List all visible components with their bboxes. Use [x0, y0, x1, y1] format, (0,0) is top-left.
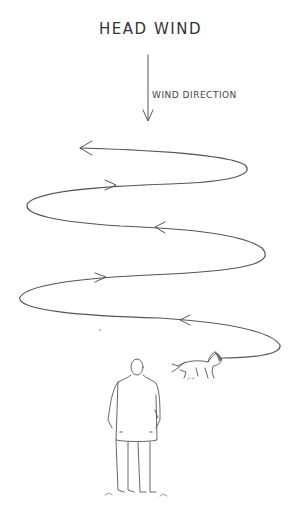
wind-direction-arrow	[143, 55, 153, 121]
arrowhead-right-1	[105, 180, 116, 190]
dog-figure	[172, 352, 222, 379]
diagram-canvas	[0, 0, 301, 530]
zigzag-search-path	[20, 148, 280, 358]
person-figure	[105, 359, 167, 496]
speck	[99, 329, 101, 331]
arrowhead-right-2	[95, 273, 106, 282]
